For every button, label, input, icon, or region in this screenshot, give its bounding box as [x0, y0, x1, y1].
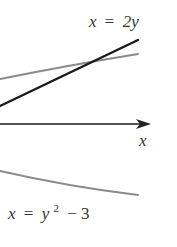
parabola-lower-branch: [0, 171, 138, 195]
x-axis-label: x: [138, 131, 147, 150]
diagram-canvas: x = 2y x x = y 2 − 3: [0, 0, 177, 247]
parabola-upper-branch: [0, 54, 138, 79]
label-line-rhs: 2y: [123, 12, 140, 31]
label-line-equation: x = 2y: [88, 12, 139, 31]
line-x-equals-2y: [0, 40, 138, 106]
label-parabola-equation: x = y 2 − 3: [7, 197, 90, 223]
